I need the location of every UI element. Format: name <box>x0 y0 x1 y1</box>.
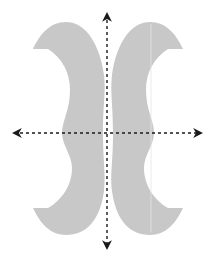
shape-left-half <box>33 22 105 235</box>
symmetry-diagram <box>0 0 209 257</box>
shape-right-half <box>111 22 183 235</box>
